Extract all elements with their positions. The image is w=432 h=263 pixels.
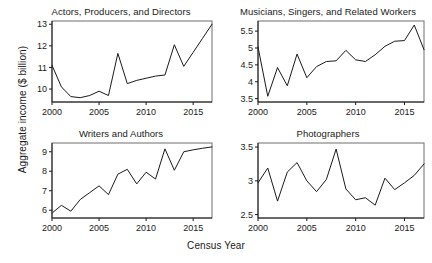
panel-actors: Actors, Producers, and Directors 1011121… [26,6,216,124]
x-tick-label: 2000 [42,223,62,233]
x-tick-label: 2005 [297,223,317,233]
data-series-line [52,24,212,97]
y-tick-label: 3.5 [240,142,253,152]
y-tick-label: 4.5 [240,60,253,70]
x-tick-label: 2010 [346,223,366,233]
x-tick-label: 2005 [89,107,109,117]
panel-photographers: Photographers 2.533.52000200520102015 [228,128,428,240]
x-tick-label: 2015 [183,107,203,117]
x-tick-label: 2000 [248,223,268,233]
figure-container: Aggregate income ($ billion) Census Year… [0,0,432,263]
y-tick-label: 9 [42,147,47,157]
x-tick-label: 2015 [394,223,414,233]
panel-musicians: Musicians, Singers, and Related Workers … [228,6,428,124]
plot-frame [258,143,424,218]
x-tick-label: 2010 [346,107,366,117]
x-tick-label: 2000 [42,107,62,117]
panel-writers: Writers and Authors 67892000200520102015 [26,128,216,240]
y-tick-label: 13 [37,19,47,29]
x-tick-label: 2015 [394,107,414,117]
y-tick-label: 3.5 [240,94,253,104]
x-tick-label: 2005 [89,223,109,233]
y-tick-label: 3 [248,176,253,186]
plot-frame [52,143,212,218]
data-series-line [258,25,424,96]
x-tick-label: 2000 [248,107,268,117]
data-series-line [258,149,424,205]
y-tick-label: 6 [42,205,47,215]
plot-photographers: 2.533.52000200520102015 [228,128,428,240]
plot-frame [52,21,212,102]
y-tick-label: 7 [42,186,47,196]
x-axis-label: Census Year [0,240,432,251]
plot-frame [258,21,424,102]
y-tick-label: 11 [38,63,47,73]
x-tick-label: 2005 [297,107,317,117]
y-tick-label: 4 [248,77,253,87]
y-tick-label: 5 [248,43,253,53]
x-tick-label: 2010 [136,223,156,233]
plot-musicians: 3.544.555.52000200520102015 [228,6,428,124]
y-tick-label: 8 [42,166,47,176]
x-tick-label: 2015 [183,223,203,233]
y-tick-label: 12 [37,41,47,51]
y-tick-label: 2.5 [240,210,253,220]
x-tick-label: 2010 [136,107,156,117]
y-tick-label: 10 [37,84,47,94]
y-tick-label: 5.5 [240,26,253,36]
plot-actors: 101112132000200520102015 [26,6,216,124]
data-series-line [52,147,212,213]
plot-writers: 67892000200520102015 [26,128,216,240]
